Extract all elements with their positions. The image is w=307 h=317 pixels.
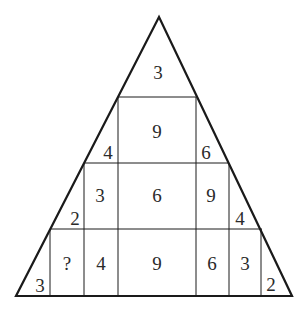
cell-row4-far-right: 3: [240, 253, 250, 274]
cell-row3-center: 6: [152, 185, 162, 206]
cell-row2-right-corner: 6: [201, 142, 211, 163]
cell-row4-right: 6: [207, 253, 217, 274]
triangle-puzzle: 3 9 4 6 3 6 9 2 4 ? 4 9 6 3 3 2: [0, 0, 307, 317]
cell-row4-right-corner: 2: [266, 274, 276, 295]
cell-row3-right: 9: [206, 185, 216, 206]
cell-row4-question: ?: [63, 253, 71, 274]
cell-row2-left-corner: 4: [103, 142, 113, 163]
cell-row4-left-corner: 3: [35, 275, 45, 296]
cell-row2-center: 9: [152, 121, 162, 142]
cell-row3-left: 3: [95, 185, 105, 206]
cell-row4-left: 4: [96, 253, 106, 274]
cell-row4-center: 9: [152, 253, 162, 274]
cell-row3-right-corner: 4: [235, 208, 245, 229]
cell-row3-left-corner: 2: [70, 208, 80, 229]
cell-top: 3: [153, 62, 163, 83]
